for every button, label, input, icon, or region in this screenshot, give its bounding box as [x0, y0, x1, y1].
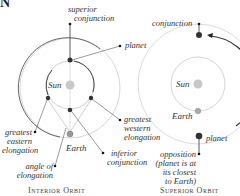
- label-line: conjunction: [107, 158, 147, 167]
- label-sun-right: Sun: [176, 80, 190, 89]
- label-sun: Sun: [48, 81, 62, 90]
- label-earth: Earth: [66, 144, 87, 153]
- label-inferior-conjunction: inferior conjunction: [107, 149, 147, 167]
- earth-icon: [67, 131, 73, 137]
- caption-interior-orbit: Interior Orbit: [28, 186, 85, 195]
- sun-icon: [66, 81, 75, 90]
- planet-eastern-elongation: [46, 96, 50, 100]
- planet-superior-conjunction: [68, 58, 73, 63]
- planet-opposition: [196, 133, 203, 140]
- label-angle-of-elongation: angle of elongation: [10, 162, 53, 180]
- label-line: elongation: [124, 133, 160, 142]
- label-line: conjunction: [68, 14, 114, 23]
- planet-conjunction: [196, 32, 202, 38]
- caption-superior-orbit: Superior Orbit: [160, 186, 219, 195]
- label-earth-right: Earth: [172, 112, 193, 121]
- label-planet: planet: [125, 41, 146, 50]
- label-planet-right: planet: [206, 134, 227, 143]
- sun-icon-right: [194, 80, 203, 89]
- label-greatest-eastern-elongation: greatest eastern elongation: [2, 128, 32, 155]
- planet-inferior-conjunction: [68, 108, 73, 113]
- label-line: elongation: [2, 146, 32, 155]
- earth-icon-right: [195, 108, 201, 114]
- label-line: elongation: [10, 171, 53, 180]
- label-superior-conjunction: superior conjunction: [68, 5, 114, 23]
- label-opposition: opposition (planet is at its closest to …: [150, 150, 196, 186]
- label-greatest-western-elongation: greatest western elongation: [124, 115, 160, 142]
- label-conjunction: conjunction: [152, 19, 192, 28]
- label-line: to Earth): [150, 177, 196, 186]
